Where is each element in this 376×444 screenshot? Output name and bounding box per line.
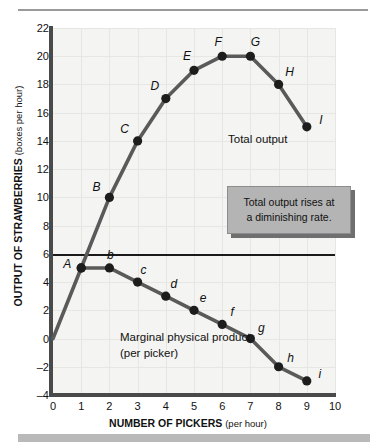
data-point-label: d (170, 277, 177, 291)
data-point-label: A (63, 257, 71, 271)
data-point-label: f (231, 305, 234, 319)
y-axis-title-main: OUTPUT OF STRAWBERRIES (12, 158, 24, 306)
data-point-marker (302, 376, 311, 385)
data-point-marker (218, 52, 227, 61)
data-point-label: D (150, 79, 159, 93)
data-point-marker (189, 66, 198, 75)
x-axis-title-unit: (per hour) (225, 418, 267, 429)
x-axis-title: NUMBER OF PICKERS (per hour) (0, 417, 376, 429)
y-axis-title: OUTPUT OF STRAWBERRIES (boxes per hour) (12, 81, 24, 311)
mpp-series-label-line2: (per picker) (120, 346, 250, 362)
data-point-label: F (215, 35, 222, 49)
mpp-series-label: Marginal physical product (per picker) (120, 330, 250, 361)
callout-line1: Total output rises at (243, 195, 334, 210)
x-axis-title-main: NUMBER OF PICKERS (109, 417, 222, 429)
data-point-label: B (92, 180, 100, 194)
data-point-label: c (141, 263, 147, 277)
figure-container: 2220181614121086420–2–4 012345678910 ABC… (0, 0, 376, 444)
data-point-label: G (251, 35, 260, 49)
data-point-label: h (287, 351, 294, 365)
data-point-marker (274, 362, 283, 371)
callout-line2: a diminishing rate. (243, 210, 334, 225)
bottom-divider-bar (18, 434, 370, 442)
data-point-marker (105, 193, 114, 202)
data-point-marker (133, 277, 142, 286)
data-point-label: e (200, 291, 207, 305)
data-point-marker (161, 94, 170, 103)
mpp-series-label-line1: Marginal physical product (120, 330, 250, 346)
data-point-marker (302, 122, 311, 131)
data-point-marker (161, 292, 170, 301)
data-point-marker (133, 136, 142, 145)
callout-box: Total output rises at a diminishing rate… (227, 186, 351, 234)
data-point-label: b (107, 248, 114, 262)
total-output-series-label: Total output (228, 133, 287, 145)
data-point-label: E (183, 49, 191, 63)
data-point-marker (77, 263, 86, 272)
data-point-label: g (258, 321, 265, 335)
data-point-label: C (120, 122, 129, 136)
data-point-marker (274, 80, 283, 89)
data-point-label: H (285, 65, 294, 79)
data-point-marker (189, 306, 198, 315)
data-point-label: I (319, 113, 322, 127)
data-point-marker (246, 52, 255, 61)
data-point-label: i (318, 367, 321, 381)
mpp-curve (81, 268, 307, 381)
y-axis-title-unit: (boxes per hour) (13, 86, 24, 156)
data-point-marker (218, 320, 227, 329)
data-point-marker (105, 263, 114, 272)
